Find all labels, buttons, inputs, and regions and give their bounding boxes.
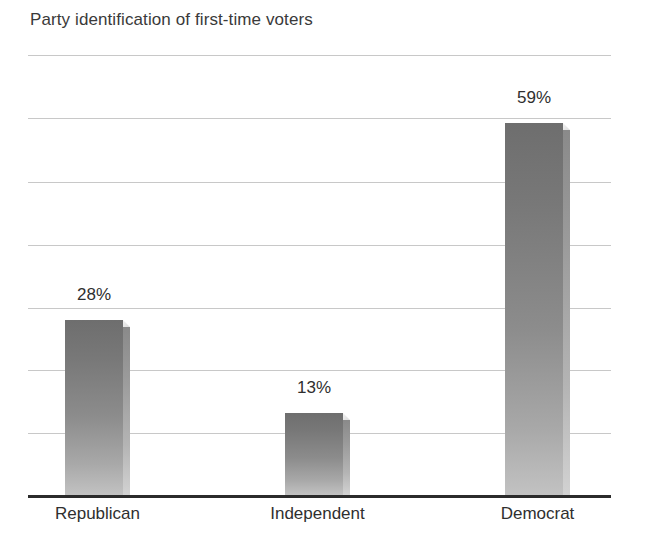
bar-value-label-democrat: 59%: [498, 88, 570, 108]
bar-top-bevel: [123, 320, 130, 327]
bar-side-face: [343, 420, 350, 495]
x-axis-label-republican: Republican: [30, 504, 165, 524]
plot-area: 28% 13% 59% Republican Independent Democ…: [0, 0, 645, 546]
bar-front-face: [65, 320, 123, 495]
bar-value-label-independent: 13%: [278, 378, 350, 398]
bar-front-face: [505, 123, 563, 495]
gridline: [28, 55, 611, 56]
bar-side-face: [123, 327, 130, 495]
bar-front-face: [285, 413, 343, 495]
bar-top-bevel: [563, 123, 570, 130]
bar-value-label-republican: 28%: [58, 285, 130, 305]
bar-chart-figure: Party identification of first-time voter…: [0, 0, 645, 546]
x-axis-label-independent: Independent: [250, 504, 385, 524]
x-axis-label-democrat: Democrat: [470, 504, 605, 524]
bar-side-face: [563, 130, 570, 495]
bar-republican[interactable]: [65, 320, 130, 495]
bar-democrat[interactable]: [505, 123, 570, 495]
bar-top-bevel: [343, 413, 350, 420]
x-axis-line: [28, 495, 611, 498]
bar-independent[interactable]: [285, 413, 350, 495]
gridline: [28, 118, 611, 119]
